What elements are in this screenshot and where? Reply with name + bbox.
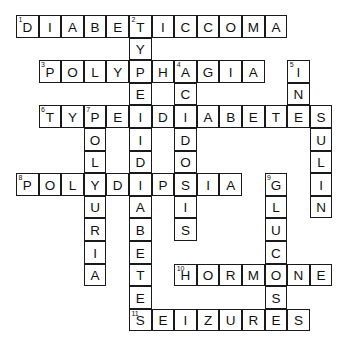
crossword-cell[interactable]: I: [129, 173, 152, 196]
crossword-cell[interactable]: E: [152, 309, 175, 332]
crossword-cell[interactable]: N: [287, 83, 310, 106]
crossword-cell[interactable]: L: [310, 151, 333, 174]
crossword-cell[interactable]: 2T: [129, 15, 152, 38]
crossword-cell[interactable]: C: [174, 83, 197, 106]
crossword-cell[interactable]: U: [84, 196, 107, 219]
crossword-cell[interactable]: Y: [106, 60, 129, 83]
crossword-cell[interactable]: D: [106, 173, 129, 196]
crossword-cell[interactable]: A: [242, 60, 265, 83]
crossword-cell[interactable]: L: [84, 151, 107, 174]
crossword-cell[interactable]: E: [129, 83, 152, 106]
crossword-cell[interactable]: T: [129, 264, 152, 287]
crossword-cell[interactable]: U: [219, 309, 242, 332]
crossword-cell[interactable]: A: [61, 15, 84, 38]
crossword-cell[interactable]: T: [265, 105, 288, 128]
crossword-cell[interactable]: D: [129, 151, 152, 174]
crossword-cell[interactable]: 3P: [39, 60, 62, 83]
crossword-cell[interactable]: D: [174, 128, 197, 151]
crossword-cell[interactable]: O: [265, 264, 288, 287]
crossword-cell[interactable]: S: [174, 218, 197, 241]
crossword-cell[interactable]: C: [197, 15, 220, 38]
crossword-cell[interactable]: I: [174, 309, 197, 332]
crossword-cell[interactable]: U: [265, 218, 288, 241]
crossword-cell[interactable]: E: [242, 105, 265, 128]
crossword-cell[interactable]: I: [39, 15, 62, 38]
crossword-cell[interactable]: N: [310, 196, 333, 219]
cell-letter: C: [181, 21, 191, 35]
crossword-cell[interactable]: P: [152, 173, 175, 196]
crossword-cell[interactable]: I: [129, 128, 152, 151]
crossword-cell[interactable]: 1D: [16, 15, 39, 38]
crossword-cell[interactable]: A: [265, 15, 288, 38]
crossword-cell[interactable]: Y: [84, 173, 107, 196]
crossword-cell[interactable]: C: [265, 241, 288, 264]
crossword-cell[interactable]: L: [84, 60, 107, 83]
crossword-cell[interactable]: 7P: [84, 105, 107, 128]
cell-letter: A: [181, 66, 190, 80]
crossword-cell[interactable]: 4A: [174, 60, 197, 83]
crossword-cell[interactable]: M: [242, 264, 265, 287]
crossword-cell[interactable]: E: [106, 105, 129, 128]
crossword-cell[interactable]: E: [310, 264, 333, 287]
crossword-cell[interactable]: S: [265, 286, 288, 309]
crossword-cell[interactable]: E: [265, 309, 288, 332]
crossword-cell[interactable]: C: [174, 15, 197, 38]
crossword-cell[interactable]: Z: [197, 309, 220, 332]
crossword-cell[interactable]: E: [129, 241, 152, 264]
cell-letter: C: [203, 21, 213, 35]
crossword-cell[interactable]: O: [39, 173, 62, 196]
crossword-cell[interactable]: L: [61, 173, 84, 196]
cell-letter: C: [271, 247, 281, 261]
crossword-cell[interactable]: A: [129, 196, 152, 219]
crossword-cell[interactable]: 6T: [39, 105, 62, 128]
crossword-cell[interactable]: M: [242, 15, 265, 38]
crossword-cell[interactable]: L: [265, 196, 288, 219]
cell-letter: U: [316, 134, 326, 148]
crossword-cell[interactable]: O: [197, 264, 220, 287]
crossword-cell[interactable]: Y: [61, 105, 84, 128]
crossword-cell[interactable]: D: [152, 105, 175, 128]
crossword-cell[interactable]: B: [219, 105, 242, 128]
crossword-cell[interactable]: O: [61, 60, 84, 83]
crossword-cell[interactable]: A: [219, 173, 242, 196]
crossword-cell[interactable]: I: [174, 105, 197, 128]
crossword-cell[interactable]: R: [219, 264, 242, 287]
crossword-cell[interactable]: 5I: [287, 60, 310, 83]
crossword-cell[interactable]: I: [219, 60, 242, 83]
crossword-cell[interactable]: U: [310, 128, 333, 151]
crossword-cell[interactable]: S: [287, 309, 310, 332]
crossword-cell[interactable]: B: [84, 15, 107, 38]
crossword-cell[interactable]: H: [152, 60, 175, 83]
crossword-cell[interactable]: A: [84, 264, 107, 287]
crossword-cell[interactable]: N: [287, 264, 310, 287]
crossword-cell[interactable]: I: [174, 196, 197, 219]
crossword-cell[interactable]: G: [197, 60, 220, 83]
crossword-cell[interactable]: O: [174, 151, 197, 174]
crossword-cell[interactable]: S: [310, 105, 333, 128]
crossword-cell[interactable]: I: [152, 15, 175, 38]
crossword-cell[interactable]: O: [84, 128, 107, 151]
crossword-cell[interactable]: 9G: [265, 173, 288, 196]
crossword-cell[interactable]: E: [129, 286, 152, 309]
crossword-cell[interactable]: I: [197, 173, 220, 196]
crossword-cell[interactable]: R: [242, 309, 265, 332]
crossword-cell[interactable]: I: [129, 105, 152, 128]
crossword-cell[interactable]: A: [197, 105, 220, 128]
crossword-cell[interactable]: P: [129, 60, 152, 83]
crossword-cell[interactable]: R: [84, 218, 107, 241]
cell-letter: I: [93, 247, 97, 261]
crossword-cell[interactable]: E: [106, 15, 129, 38]
crossword-cell[interactable]: O: [219, 15, 242, 38]
crossword-cell[interactable]: I: [310, 173, 333, 196]
crossword-cell[interactable]: B: [129, 218, 152, 241]
cell-letter: T: [136, 21, 144, 35]
crossword-cell[interactable]: E: [287, 105, 310, 128]
crossword-cell[interactable]: 11S: [129, 309, 152, 332]
crossword-cell[interactable]: 10H: [174, 264, 197, 287]
cell-letter: T: [136, 269, 144, 283]
crossword-cell[interactable]: Y: [129, 38, 152, 61]
crossword-cell[interactable]: I: [84, 241, 107, 264]
cell-letter: N: [294, 88, 304, 102]
crossword-cell[interactable]: S: [174, 173, 197, 196]
crossword-cell[interactable]: 8P: [16, 173, 39, 196]
